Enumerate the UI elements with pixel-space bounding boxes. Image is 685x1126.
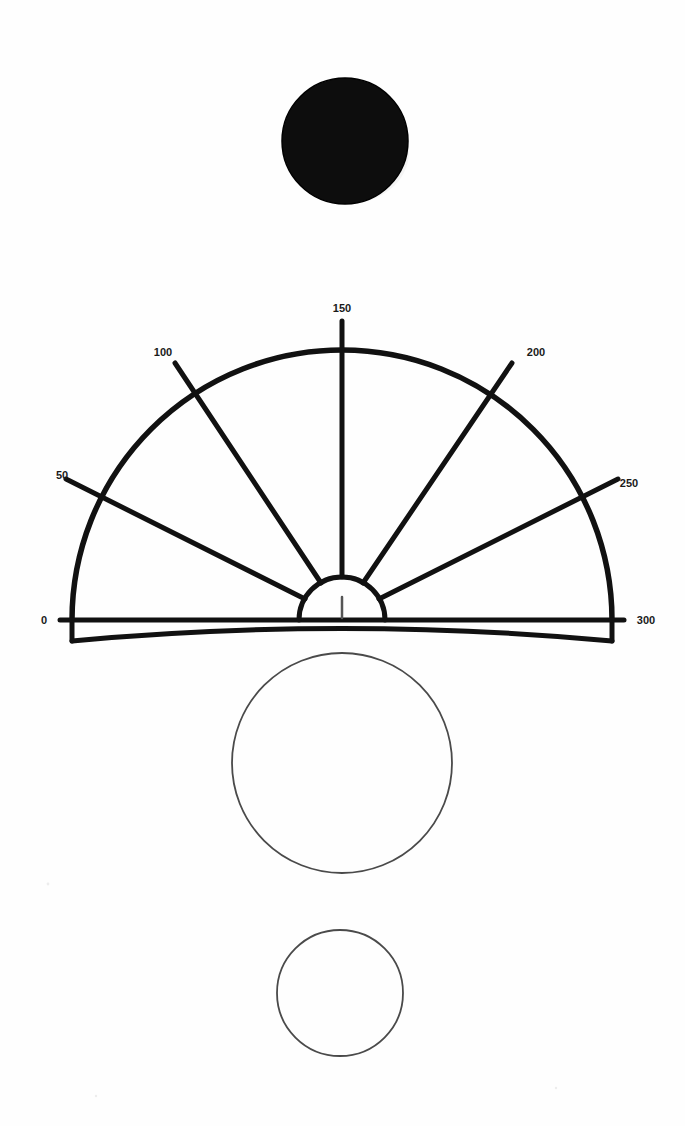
tick-label-50: 50 <box>56 469 68 481</box>
tick-label-200: 200 <box>527 346 545 358</box>
filled-disc-group <box>282 78 409 204</box>
figure-root: 0 50 100 150 200 250 300 <box>0 0 685 1126</box>
tick-label-250: 250 <box>620 477 638 489</box>
tick-label-0: 0 <box>41 614 47 626</box>
diagram-canvas: 0 50 100 150 200 250 300 <box>0 0 685 1126</box>
tick-label-300: 300 <box>637 614 655 626</box>
tick-label-100: 100 <box>154 346 172 358</box>
tick-label-150: 150 <box>333 302 351 314</box>
